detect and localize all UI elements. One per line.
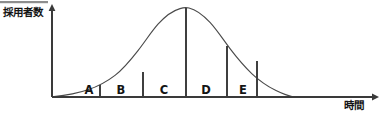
x-axis-arrowhead-icon: [372, 94, 379, 101]
segment-label-group: ABCDE: [85, 83, 248, 97]
segment-label-e: E: [239, 83, 247, 97]
top-divider-rule: [0, 1, 48, 3]
figure-container: ABCDE 採用者数 時間: [0, 0, 383, 113]
distribution-chart: ABCDE: [0, 0, 383, 113]
segment-label-b: B: [117, 83, 126, 97]
y-axis-label: 採用者数: [3, 7, 43, 18]
segment-label-d: D: [201, 83, 211, 97]
segment-label-c: C: [160, 83, 168, 97]
segment-label-a: A: [85, 83, 94, 97]
x-axis-label: 時間: [344, 100, 364, 111]
y-axis-arrowhead-icon: [49, 4, 56, 11]
